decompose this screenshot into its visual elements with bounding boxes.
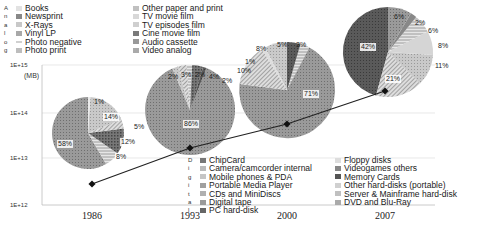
pie-1993-label: 2% [167,73,179,81]
swatch-icon [335,191,341,196]
pie-2000-label: 10% [236,67,252,75]
pie-2007-label: 6% [393,13,405,21]
pie-1993-label: 2% [221,77,233,85]
x-tick-1993: 1993 [180,210,200,221]
pie-1993-label: 2% [194,71,206,79]
x-tick-1986: 1986 [82,210,102,221]
pie-2000-label: 1% [244,58,256,66]
pie-2000-label: 8% [255,45,267,53]
pie-2007-label: 42% [360,43,376,51]
swatch-icon [335,200,341,205]
swatch-icon [200,166,206,171]
pie-1986-label: 58% [57,140,73,148]
pie-1986-label: 14% [103,113,119,121]
pie-1993-label: 3% [180,71,192,79]
swatch-icon [200,158,206,163]
pie-1993-label: 86% [183,120,199,128]
pie-1986-label: 1% [93,98,105,106]
pie-2000-label: 3% [295,41,307,49]
pie-1993-label: 4% [208,73,220,81]
legend-digital-col1: DChipCard iCamera/camcorder internal gMo… [188,156,312,215]
swatch-icon [335,158,341,163]
pie-2007-label: 6% [427,27,439,35]
swatch-icon [200,200,206,205]
pie-2007-label: 8% [437,42,449,50]
pie-2007-label: 21% [385,75,401,83]
swatch-icon [335,166,341,171]
swatch-icon [200,183,206,188]
legend-digital-col2: Floppy disks Videogames others Memory Ca… [335,156,457,206]
pie-2007-label: 2% [414,19,426,27]
x-tick-2007: 2007 [375,210,395,221]
pie-1986 [52,97,124,169]
pie-2000-label: 71% [303,90,319,98]
pie-2007-label: 11% [434,62,450,70]
pie-1986-label: 12% [120,138,136,146]
swatch-icon [200,174,206,179]
pie-1986-label: 8% [115,153,127,161]
swatch-icon [335,174,341,179]
swatch-icon [335,183,341,188]
x-tick-2000: 2000 [277,210,297,221]
pie-1986-label: 5% [133,123,145,131]
swatch-icon [200,208,206,213]
legend-item: DVD and Blu-Ray [335,198,457,206]
swatch-icon [200,191,206,196]
pie-2000-label: 5% [276,41,288,49]
